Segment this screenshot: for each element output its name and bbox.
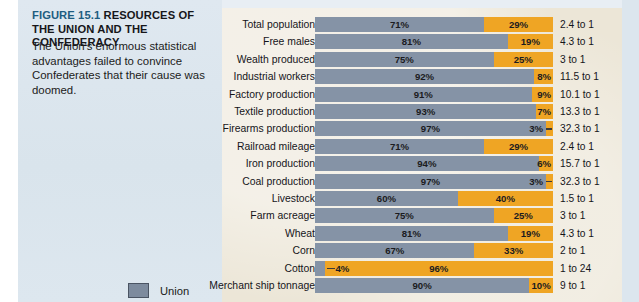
row-ratio: 10.1 to 1: [560, 87, 600, 102]
bar-track: 81%19%: [315, 34, 553, 49]
bar-value-union: 71%: [315, 139, 484, 154]
bar-value-confederacy: 33%: [474, 243, 553, 258]
bar-value-union: 75%: [315, 52, 494, 67]
bar-value-confederacy: 29%: [484, 139, 553, 154]
row-label: Farm acreage: [135, 208, 315, 223]
row-ratio: 1 to 24: [560, 261, 591, 276]
chart-row: Coal production97%3%32.3 to 1: [222, 173, 622, 190]
chart-row: Farm acreage75%25%3 to 1: [222, 207, 622, 224]
bar-track: 81%19%: [315, 226, 553, 241]
chart-row: Corn67%33%2 to 1: [222, 242, 622, 259]
row-ratio: 11.5 to 1: [560, 69, 599, 84]
bar-value-union: 97%: [315, 121, 546, 136]
row-ratio: 15.7 to 1: [560, 156, 600, 171]
row-label: Corn: [135, 243, 315, 258]
chart-row: Livestock60%40%1.5 to 1: [222, 190, 622, 207]
bar-track: 94%6%: [315, 156, 553, 171]
chart-row: Merchant ship tonnage90%10%9 to 1: [222, 277, 622, 294]
panel-right-strip: [622, 0, 639, 302]
row-label: Wealth produced: [135, 52, 315, 67]
row-label: Industrial workers: [135, 69, 315, 84]
chart-row: Factory production91%9%10.1 to 1: [222, 86, 622, 103]
chart-row: Total population71%29%2.4 to 1: [222, 16, 622, 33]
row-label: Wheat: [135, 226, 315, 241]
bar-value-confederacy: 19%: [508, 226, 553, 241]
leader-line-confederacy: [546, 128, 552, 130]
chart-row: Cotton4%96%1 to 24: [222, 260, 622, 277]
bar-value-confederacy: 25%: [494, 208, 554, 223]
row-ratio: 4.3 to 1: [560, 226, 594, 241]
bar-value-union: 97%: [315, 174, 546, 189]
figure-screenshot: FIGURE 15.1 RESOURCES OF THE UNION AND T…: [0, 0, 639, 302]
row-label: Coal production: [135, 174, 315, 189]
bar-value-union: 81%: [315, 34, 508, 49]
chart-row: Free males81%19%4.3 to 1: [222, 33, 622, 50]
bar-value-union: 71%: [315, 17, 484, 32]
chart-row: Firearms production97%3%32.3 to 1: [222, 120, 622, 137]
row-ratio: 9 to 1: [560, 278, 586, 293]
row-label: Total population: [135, 17, 315, 32]
chart-row: Wheat81%19%4.3 to 1: [222, 225, 622, 242]
bar-track: 71%29%: [315, 17, 553, 32]
bar-value-union: 67%: [315, 243, 474, 258]
bar-value-confederacy: 6%: [525, 156, 551, 171]
bar-value-confederacy: 40%: [458, 191, 553, 206]
row-label: Factory production: [135, 87, 315, 102]
bar-track: 91%9%: [315, 87, 553, 102]
bar-segment-union: [315, 261, 325, 276]
bar-value-union: 92%: [315, 69, 534, 84]
bar-track: 71%29%: [315, 139, 553, 154]
bar-value-union: 91%: [315, 87, 532, 102]
row-label: Iron production: [135, 156, 315, 171]
bar-value-confederacy: 3%: [517, 174, 543, 189]
row-ratio: 3 to 1: [560, 52, 586, 67]
bar-track: 93%7%: [315, 104, 553, 119]
bar-value-union: 60%: [315, 191, 458, 206]
bar-value-confederacy: 19%: [508, 34, 553, 49]
bar-track: 75%25%: [315, 208, 553, 223]
row-label: Merchant ship tonnage: [135, 278, 315, 293]
row-ratio: 3 to 1: [560, 208, 586, 223]
row-ratio: 32.3 to 1: [560, 174, 600, 189]
bar-value-confederacy: 3%: [517, 121, 543, 136]
bar-value-union: 90%: [315, 278, 529, 293]
row-label: Livestock: [135, 191, 315, 206]
chart-row: Wealth produced75%25%3 to 1: [222, 51, 622, 68]
chart-row: Industrial workers92%8%11.5 to 1: [222, 68, 622, 85]
bar-track: 4%96%: [315, 261, 553, 276]
bar-track: 75%25%: [315, 52, 553, 67]
bar-value-confederacy: 10%: [529, 278, 553, 293]
bar-track: 97%3%: [315, 121, 553, 136]
bar-value-confederacy: 8%: [525, 69, 551, 84]
row-label: Free males: [135, 34, 315, 49]
row-label: Textile production: [135, 104, 315, 119]
bar-value-union: 75%: [315, 208, 494, 223]
bar-track: 92%8%: [315, 69, 553, 84]
row-ratio: 1.5 to 1: [560, 191, 594, 206]
bar-value-union: 93%: [315, 104, 536, 119]
bar-track: 60%40%: [315, 191, 553, 206]
leader-line-confederacy: [546, 181, 552, 183]
bar-value-confederacy: 25%: [494, 52, 554, 67]
bar-value-confederacy: 9%: [525, 87, 551, 102]
bar-track: 97%3%: [315, 174, 553, 189]
stacked-bar-chart: Total population71%29%2.4 to 1Free males…: [222, 8, 622, 302]
row-ratio: 2.4 to 1: [560, 139, 594, 154]
bar-value-union: 81%: [315, 226, 508, 241]
chart-row: Iron production94%6%15.7 to 1: [222, 155, 622, 172]
row-ratio: 13.3 to 1: [560, 104, 600, 119]
row-label: Railroad mileage: [135, 139, 315, 154]
bar-track: 67%33%: [315, 243, 553, 258]
bar-track: 90%10%: [315, 278, 553, 293]
row-label: Firearms production: [135, 121, 315, 136]
row-ratio: 2.4 to 1: [560, 17, 594, 32]
bar-value-confederacy: 29%: [484, 17, 553, 32]
chart-row: Railroad mileage71%29%2.4 to 1: [222, 138, 622, 155]
chart-row: Textile production93%7%13.3 to 1: [222, 103, 622, 120]
bar-value-union: 94%: [315, 156, 539, 171]
row-ratio: 2 to 1: [560, 243, 586, 258]
figure-number: FIGURE 15.1: [32, 9, 100, 21]
row-ratio: 32.3 to 1: [560, 121, 600, 136]
row-label: Cotton: [135, 261, 315, 276]
bar-value-confederacy: 96%: [325, 261, 553, 276]
